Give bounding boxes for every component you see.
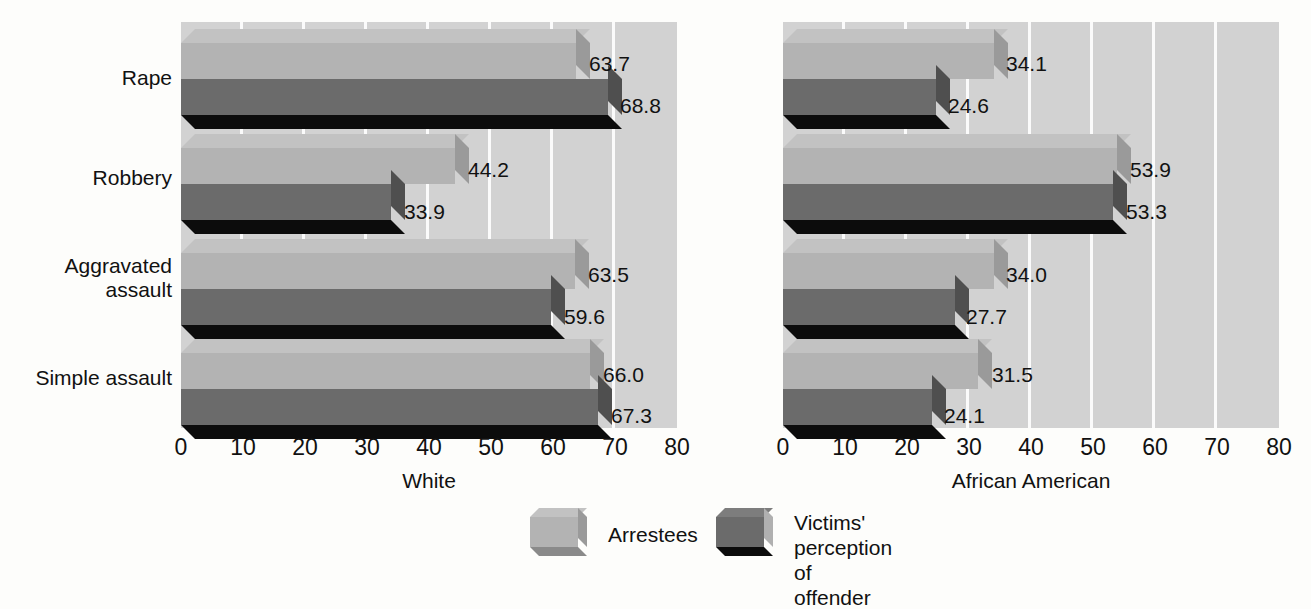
bar-front-face <box>783 389 932 425</box>
bar-simple-victims <box>783 389 932 425</box>
value-label-rape-arrestees: 34.1 <box>1006 52 1047 76</box>
x-tick-60: 60 <box>1142 434 1168 461</box>
x-tick-70: 70 <box>1204 434 1230 461</box>
bar-robbery-victims <box>783 184 1113 220</box>
bar-front-face <box>783 184 1113 220</box>
x-tick-50: 50 <box>1080 434 1106 461</box>
bar-top-face <box>783 339 992 353</box>
bar-shadow-face <box>783 425 946 439</box>
bar-simple-arrestees <box>783 353 978 389</box>
gridline-60 <box>1152 22 1155 428</box>
swatch-side-face <box>764 508 773 547</box>
bar-front-face <box>783 43 994 79</box>
x-tick-0: 0 <box>777 434 790 461</box>
legend-label-arrestees: Arrestees <box>608 522 698 547</box>
bar-top-face <box>783 134 1131 148</box>
swatch-shadow-face <box>530 547 587 556</box>
value-label-simple-arrestees: 31.5 <box>992 363 1033 387</box>
legend-swatch-victims-icon <box>716 508 774 556</box>
x-tick-10: 10 <box>832 434 858 461</box>
x-tick-30: 30 <box>956 434 982 461</box>
bar-shadow-face <box>783 115 950 129</box>
value-label-robbery-arrestees: 53.9 <box>1130 158 1171 182</box>
bar-front-face <box>783 148 1117 184</box>
x-tick-80: 80 <box>1266 434 1292 461</box>
chart-legend: Arrestees Victims' perception of offende… <box>0 500 1311 580</box>
bar-robbery-arrestees <box>783 148 1117 184</box>
bar-top-face <box>783 239 1008 253</box>
legend-swatch-arrestees-icon <box>530 508 588 556</box>
value-label-robbery-victims: 53.3 <box>1126 200 1167 224</box>
bar-front-face <box>783 353 978 389</box>
swatch-front-face <box>530 517 578 547</box>
x-axis-title-african-american: African American <box>952 469 1111 493</box>
bar-top-face <box>783 29 1008 43</box>
bar-rape-arrestees <box>783 43 994 79</box>
swatch-shadow-face <box>716 547 773 556</box>
swatch-front-face <box>716 517 764 547</box>
bar-front-face <box>783 79 936 115</box>
value-label-aggravated-arrestees: 34.0 <box>1006 263 1047 287</box>
value-label-aggravated-victims: 27.7 <box>966 305 1007 329</box>
x-tick-40: 40 <box>1018 434 1044 461</box>
bar-shadow-face <box>783 325 969 339</box>
value-label-simple-victims: 24.1 <box>944 404 985 428</box>
bar-front-face <box>783 289 955 325</box>
gridline-70 <box>1214 22 1217 428</box>
bar-rape-victims <box>783 79 936 115</box>
bar-shadow-face <box>783 220 1127 234</box>
value-label-rape-victims: 24.6 <box>948 94 989 118</box>
bar-aggravated-victims <box>783 289 955 325</box>
legend-label-victims-perception: Victims' perception of offender <box>794 510 892 609</box>
swatch-side-face <box>578 508 587 547</box>
panel-african-american: 34.1 24.6 53.9 53.3 <box>0 0 1311 500</box>
x-tick-20: 20 <box>894 434 920 461</box>
